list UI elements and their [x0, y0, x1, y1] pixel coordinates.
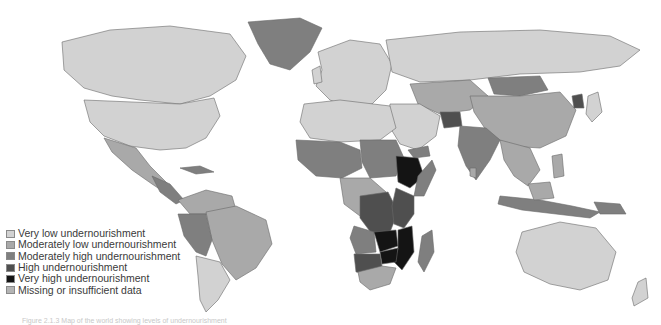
- region-north-africa: [300, 100, 396, 142]
- region-north-korea: [572, 94, 584, 108]
- region-afghanistan: [440, 112, 462, 128]
- swatch-high: [6, 264, 15, 272]
- region-japan: [586, 92, 602, 122]
- region-drc: [360, 192, 398, 234]
- region-madagascar: [418, 230, 434, 272]
- swatch-very-low: [6, 230, 15, 238]
- region-mongolia: [488, 76, 548, 96]
- swatch-moderately-high: [6, 252, 15, 260]
- map-legend: Very low undernourishment Moderately low…: [6, 228, 180, 296]
- swatch-moderately-low: [6, 241, 15, 249]
- region-west-africa: [296, 140, 362, 178]
- region-indonesia: [498, 196, 600, 218]
- legend-item-very-high: Very high undernourishment: [6, 273, 180, 284]
- region-philippines: [552, 154, 564, 178]
- region-sri-lanka: [470, 168, 476, 178]
- legend-item-missing: Missing or insufficient data: [6, 284, 180, 295]
- swatch-missing: [6, 286, 15, 294]
- region-europe: [316, 40, 392, 108]
- region-usa: [84, 98, 220, 150]
- swatch-very-high: [6, 275, 15, 283]
- region-papua: [594, 202, 626, 214]
- legend-item-moderately-low: Moderately low undernourishment: [6, 239, 180, 250]
- region-peru-bolivia: [178, 214, 212, 256]
- region-greenland: [248, 18, 322, 70]
- region-russia: [386, 30, 640, 82]
- region-caribbean: [180, 166, 214, 174]
- region-uk: [312, 66, 322, 84]
- figure-caption: Figure 2.1.3 Map of the world showing le…: [22, 317, 227, 324]
- legend-label: Moderately low undernourishment: [18, 239, 176, 250]
- region-australia: [516, 222, 616, 290]
- region-new-zealand: [632, 278, 648, 306]
- legend-label: Very high undernourishment: [18, 273, 149, 284]
- region-canada: [62, 26, 246, 104]
- legend-label: Missing or insufficient data: [18, 285, 142, 296]
- region-borneo: [528, 182, 554, 200]
- region-east-africa: [392, 188, 414, 228]
